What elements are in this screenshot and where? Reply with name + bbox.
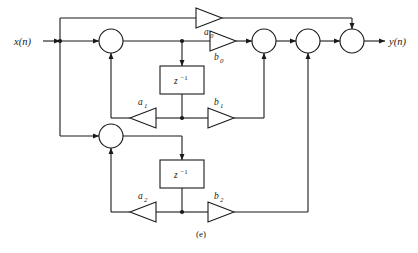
svg-text:−1: −1 [181,74,188,81]
adder-5 [340,29,364,53]
adder-1 [99,29,123,53]
svg-text:a: a [138,191,143,201]
svg-text:z: z [173,76,178,86]
junction-tap-main [180,39,184,43]
gain-triangle-b1 [208,108,234,128]
gain-label-a1: a 1 [138,97,147,109]
signal-flow-diagram: x(n) y(n) a 0 b 0 a 1 b 1 a 2 b [0,0,418,253]
svg-text:2: 2 [220,196,224,203]
gain-label-a0: a 0 [204,27,214,39]
svg-text:a: a [138,97,143,107]
svg-text:0: 0 [210,32,214,39]
gain-label-b0: b 0 [214,52,224,64]
junction-bus-delay2 [180,210,184,214]
gain-triangle-a0 [196,8,222,28]
svg-text:z: z [173,170,178,180]
svg-text:0: 0 [220,57,224,64]
adder-4 [296,29,320,53]
svg-text:−1: −1 [181,168,188,175]
gain-triangle-a1 [130,108,156,128]
junction-input [58,39,62,43]
adder-2 [99,124,123,148]
gain-label-b1: b 1 [214,97,223,109]
svg-text:1: 1 [220,102,223,109]
path-input-to-adder2 [60,41,99,136]
flow-graph-canvas: x(n) y(n) a 0 b 0 a 1 b 1 a 2 b [0,0,418,253]
path-b1-to-adder3 [234,53,264,118]
gain-triangle-b0 [210,31,236,51]
input-label: x(n) [13,36,31,48]
path-a1-to-adder1 [111,53,130,118]
svg-text:b: b [214,52,219,62]
path-adder2-to-delay2 [123,136,182,160]
svg-text:a: a [204,27,209,37]
path-b2-to-adder4 [234,53,308,212]
gain-triangle-a2 [130,202,156,222]
figure-caption: (e) [196,229,206,239]
svg-text:2: 2 [144,196,148,203]
svg-text:1: 1 [144,102,147,109]
output-label: y(n) [388,36,406,48]
gain-label-a2: a 2 [138,191,148,203]
gain-triangle-b2 [208,202,234,222]
junction-bus-delay1 [180,116,184,120]
svg-text:b: b [214,191,219,201]
adder-3 [252,29,276,53]
path-a2-to-adder2 [111,148,130,212]
gain-label-b2: b 2 [214,191,224,203]
svg-text:b: b [214,97,219,107]
